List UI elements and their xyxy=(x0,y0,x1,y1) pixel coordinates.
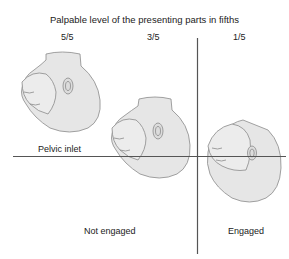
fetal-head-diagram xyxy=(0,0,289,259)
fetal-head-1-5 xyxy=(207,120,281,202)
not-engaged-label: Not engaged xyxy=(84,226,136,236)
fetal-head-3-5 xyxy=(112,97,191,178)
engaged-label: Engaged xyxy=(228,226,264,236)
fetal-head-5-5 xyxy=(22,52,101,132)
pelvic-inlet-label: Pelvic inlet xyxy=(38,144,81,154)
